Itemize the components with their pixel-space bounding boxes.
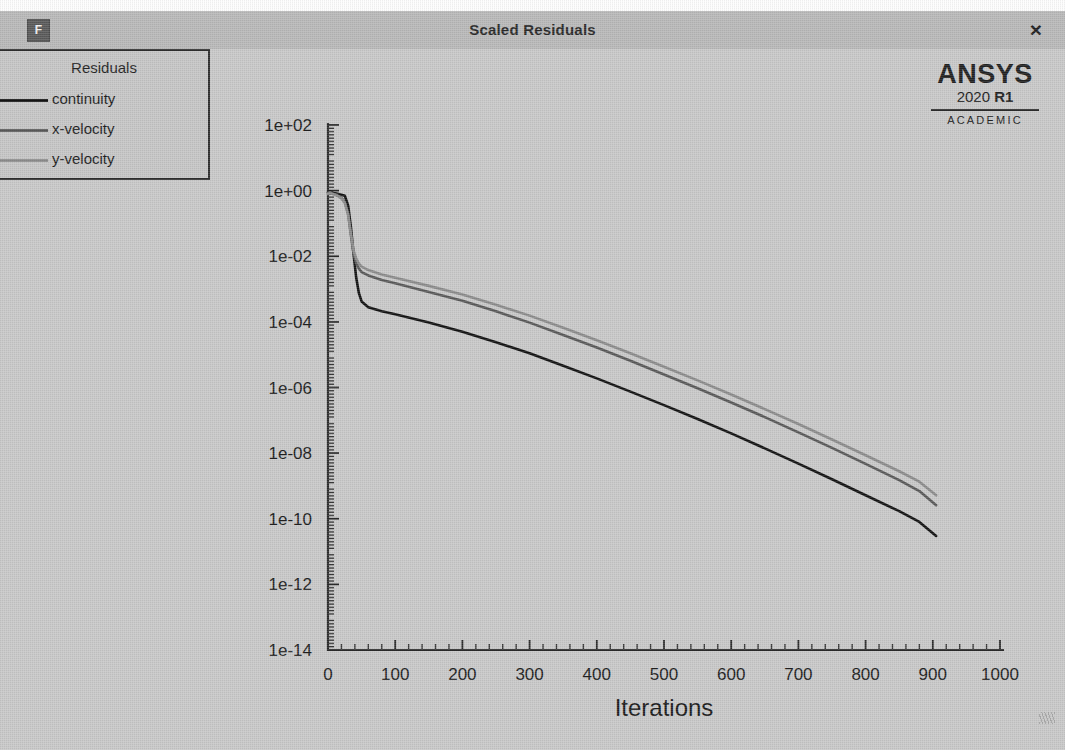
close-icon[interactable]: × bbox=[1023, 17, 1049, 43]
watermark-mark bbox=[1039, 712, 1055, 724]
y-tick-label: 1e-12 bbox=[269, 575, 312, 594]
x-tick-label: 800 bbox=[851, 665, 879, 684]
y-tick-label: 1e-14 bbox=[269, 641, 312, 660]
x-tick-label: 400 bbox=[583, 665, 611, 684]
y-tick-label: 1e+02 bbox=[264, 116, 312, 135]
legend-item-x-velocity[interactable]: x-velocity bbox=[0, 119, 212, 141]
page-title: Scaled Residuals bbox=[0, 11, 1065, 49]
legend-title: Residuals bbox=[0, 59, 212, 76]
legend-swatch-icon bbox=[0, 129, 48, 132]
ansys-divider bbox=[931, 109, 1039, 111]
x-tick-label: 500 bbox=[650, 665, 678, 684]
ansys-logo: ANSYS 2020 R1 ACADEMIC bbox=[929, 60, 1041, 128]
x-tick-label: 0 bbox=[323, 665, 332, 684]
y-tick-label: 1e-08 bbox=[269, 444, 312, 463]
ansys-version-year: 2020 bbox=[957, 88, 990, 105]
ansys-version: 2020 R1 bbox=[929, 88, 1041, 106]
series-line-continuity bbox=[328, 191, 936, 536]
ansys-brand: ANSYS bbox=[929, 60, 1041, 88]
legend-swatch-icon bbox=[0, 99, 48, 102]
legend-item-label: y-velocity bbox=[52, 150, 115, 167]
x-tick-label: 900 bbox=[919, 665, 947, 684]
x-tick-label: 700 bbox=[784, 665, 812, 684]
ansys-license: ACADEMIC bbox=[929, 113, 1041, 128]
y-tick-label: 1e-02 bbox=[269, 247, 312, 266]
legend-item-continuity[interactable]: continuity bbox=[0, 89, 212, 111]
plot-axes bbox=[328, 123, 1004, 650]
legend-item-y-velocity[interactable]: y-velocity bbox=[0, 149, 212, 171]
legend-box: Residuals continuityx-velocityy-velocity bbox=[0, 49, 210, 180]
x-axis-title: Iterations bbox=[615, 694, 714, 721]
series-line-y-velocity bbox=[328, 193, 936, 495]
x-tick-label: 200 bbox=[448, 665, 476, 684]
legend-item-label: x-velocity bbox=[52, 120, 115, 137]
series-line-x-velocity bbox=[328, 192, 936, 505]
legend-swatch-icon bbox=[0, 159, 48, 162]
y-tick-label: 1e-10 bbox=[269, 510, 312, 529]
window-top-strip bbox=[0, 0, 1065, 11]
y-tick-label: 1e-06 bbox=[269, 379, 312, 398]
x-tick-label: 100 bbox=[381, 665, 409, 684]
x-tick-label: 1000 bbox=[981, 665, 1019, 684]
x-tick-label: 300 bbox=[515, 665, 543, 684]
x-tick-label: 600 bbox=[717, 665, 745, 684]
y-tick-label: 1e+00 bbox=[264, 182, 312, 201]
y-tick-label: 1e-04 bbox=[269, 313, 312, 332]
fluent-residuals-window: F Scaled Residuals × 1e+021e+001e-021e-0… bbox=[0, 0, 1065, 750]
ansys-version-release: R1 bbox=[994, 88, 1013, 105]
legend-item-label: continuity bbox=[52, 90, 115, 107]
